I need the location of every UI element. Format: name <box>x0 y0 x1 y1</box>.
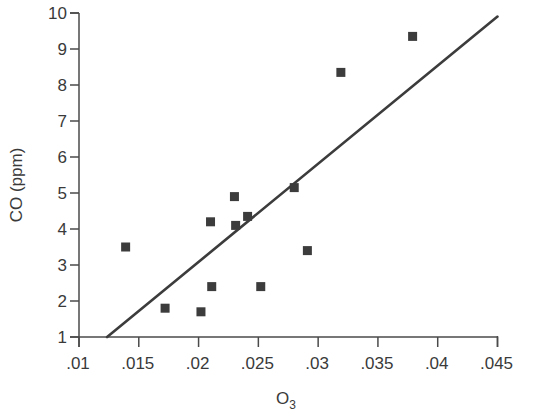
data-point-marker <box>408 32 417 41</box>
x-tick-label: .03 <box>305 354 329 373</box>
y-tick-label: 6 <box>58 148 67 167</box>
x-tick-label: .02 <box>186 354 210 373</box>
data-point-marker <box>231 221 240 230</box>
y-tick-label: 5 <box>58 184 67 203</box>
data-point-marker <box>230 192 239 201</box>
data-point-marker <box>196 307 205 316</box>
x-tick-label: .04 <box>425 354 449 373</box>
y-tick-label: 2 <box>58 292 67 311</box>
x-axis: .01.015.02.025.03.035.04.045 <box>66 336 513 373</box>
y-tick-label: 3 <box>58 256 67 275</box>
y-tick-label: 1 <box>58 328 67 347</box>
data-point-marker <box>243 212 252 221</box>
y-tick-label: 7 <box>58 112 67 131</box>
data-point-marker <box>303 246 312 255</box>
y-tick-label: 9 <box>58 40 67 59</box>
scatter-chart: 12345678910 .01.015.02.025.03.035.04.045… <box>0 0 533 416</box>
y-axis-title: CO (ppm) <box>7 148 26 223</box>
x-tick-label: .035 <box>360 354 393 373</box>
x-tick-label: .015 <box>121 354 154 373</box>
x-tick-label: .025 <box>241 354 274 373</box>
data-point-marker <box>121 243 130 252</box>
x-axis-title: O3 <box>276 389 296 412</box>
data-point-marker <box>256 282 265 291</box>
data-point-marker <box>207 282 216 291</box>
chart-canvas: 12345678910 .01.015.02.025.03.035.04.045… <box>0 0 533 416</box>
data-point-marker <box>290 183 299 192</box>
x-tick-label: .01 <box>66 354 90 373</box>
regression-line <box>107 17 497 337</box>
data-point-marker <box>161 304 170 313</box>
data-points <box>121 32 417 316</box>
x-axis-title-subscript: 3 <box>289 398 296 412</box>
x-tick-label: .045 <box>480 354 513 373</box>
y-axis: 12345678910 <box>48 4 79 347</box>
y-tick-label: 10 <box>48 4 67 23</box>
x-axis-title-main: O <box>276 389 289 408</box>
y-tick-label: 4 <box>58 220 67 239</box>
regression-line-path <box>107 17 497 337</box>
data-point-marker <box>336 68 345 77</box>
y-tick-label: 8 <box>58 76 67 95</box>
data-point-marker <box>206 217 215 226</box>
